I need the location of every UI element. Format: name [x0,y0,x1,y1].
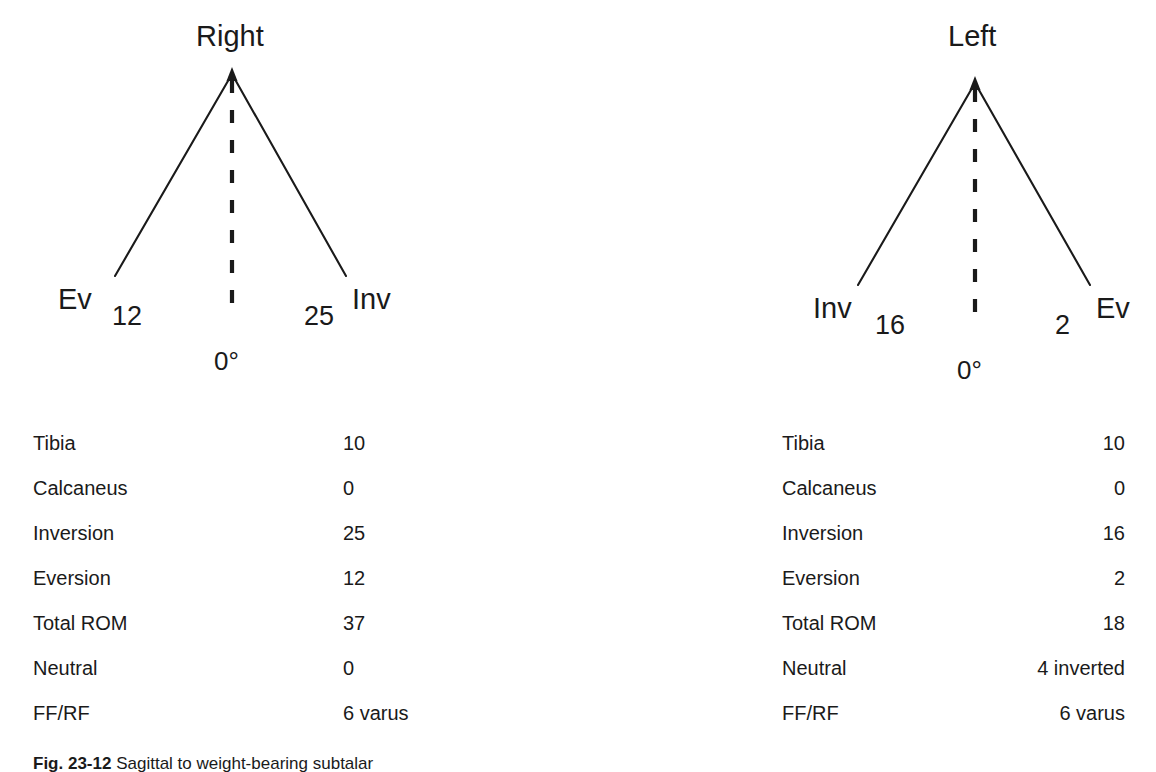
arm-value-left-right-foot: 12 [112,303,142,330]
row-value: 2 [1114,568,1125,588]
arm-label-right-right-foot: Inv [352,285,391,314]
table-row: Inversion 25 [33,510,433,555]
row-value: 12 [343,568,468,588]
arm-label-left-right-foot: Ev [58,285,92,314]
left-foot-measurements-table: Tibia 10 Calcaneus 0 Inversion 16 Eversi… [782,420,1125,735]
row-label: FF/RF [33,703,90,723]
row-label: Eversion [782,568,860,588]
inversion-arm-line [232,74,346,276]
left-foot-goniometry-diagram: Left Inv 16 0° 2 Ev [578,0,1156,400]
arm-label-right-left-foot: Ev [1096,294,1130,323]
table-row: Inversion 16 [782,510,1125,555]
row-label: FF/RF [782,703,839,723]
table-row: Tibia 10 [782,420,1125,465]
arm-value-left-left-foot: 16 [875,312,905,339]
row-value: 16 [1103,523,1125,543]
row-value: 18 [1103,613,1125,633]
figure-caption-text: Sagittal to weight-bearing subtalar [116,754,373,772]
row-value: 10 [343,433,468,453]
row-value: 0 [1114,478,1125,498]
row-value: 6 varus [1059,703,1125,723]
left-foot-vee-svg [578,0,1156,400]
row-label: Tibia [782,433,825,453]
eversion-arm-line [115,74,232,276]
row-label: Total ROM [782,613,876,633]
row-value: 4 inverted [1037,658,1125,678]
row-label: Calcaneus [33,478,128,498]
row-value: 37 [343,613,468,633]
row-label: Neutral [33,658,97,678]
table-row: Calcaneus 0 [33,465,433,510]
row-value: 25 [343,523,468,543]
right-foot-measurements-table: Tibia 10 Calcaneus 0 Inversion 25 Eversi… [33,420,433,735]
row-label: Neutral [782,658,846,678]
right-foot-goniometry-diagram: Right Ev 12 0° 25 Inv [0,0,578,400]
row-label: Eversion [33,568,111,588]
row-value: 6 varus [343,703,468,723]
row-label: Calcaneus [782,478,877,498]
neutral-zero-label-right-foot: 0° [214,348,239,374]
figure-caption-number: Fig. 23-12 [33,754,111,772]
row-value: 10 [1103,433,1125,453]
row-label: Tibia [33,433,76,453]
apex-arrowhead-icon [970,76,981,90]
arm-value-right-right-foot: 25 [304,303,334,330]
row-label: Inversion [782,523,863,543]
arm-label-left-left-foot: Inv [813,294,852,323]
row-label: Total ROM [33,613,127,633]
table-row: FF/RF 6 varus [782,690,1125,735]
row-value: 0 [343,658,468,678]
figure-caption: Fig. 23-12 Sagittal to weight-bearing su… [33,754,1133,772]
apex-arrowhead-icon [227,67,238,81]
neutral-zero-label-left-foot: 0° [957,357,982,383]
figure-page: Right Ev 12 0° 25 Inv Left Inv 16 0° [0,0,1156,772]
table-row: Total ROM 37 [33,600,433,645]
table-row: Tibia 10 [33,420,433,465]
table-row: FF/RF 6 varus [33,690,433,735]
right-foot-vee-svg [0,0,578,400]
table-row: Total ROM 18 [782,600,1125,645]
inversion-arm-line [858,83,975,285]
arm-value-right-left-foot: 2 [1055,312,1070,339]
table-row: Eversion 2 [782,555,1125,600]
table-row: Neutral 4 inverted [782,645,1125,690]
row-label: Inversion [33,523,114,543]
table-row: Neutral 0 [33,645,433,690]
table-row: Eversion 12 [33,555,433,600]
row-value: 0 [343,478,468,498]
table-row: Calcaneus 0 [782,465,1125,510]
eversion-arm-line [975,83,1090,285]
